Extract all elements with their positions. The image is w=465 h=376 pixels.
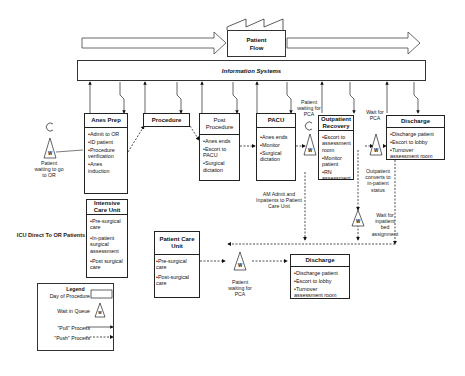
procedure-title: Procedure [144, 114, 189, 126]
list-item: Anes induction [88, 161, 125, 174]
pacu-title: PACU [257, 114, 295, 128]
patient-care-unit-title: Patient Care Unit [155, 232, 199, 255]
post-procedure-box: Post Procedure Anes ends Escort to PACU … [199, 113, 240, 181]
patient-care-unit-items: Pre-surgical care Post-surgical care [155, 255, 199, 287]
pacu-box: PACU Anes ends Monitor Surgical dictatio… [256, 113, 296, 181]
outpatient-recovery-items: Escort to assessment room Monitor patien… [319, 131, 353, 182]
patient-waiting-pca-top-label: Patient waiting for PCA [295, 99, 323, 118]
list-item: Post-surgical care [156, 274, 197, 287]
list-item: In-patient surgical assessment [90, 235, 125, 254]
legend-title: Legend [38, 286, 113, 292]
icu-box: Intensive Care Unit Pre-surgical care In… [86, 199, 128, 278]
post-procedure-items: Anes ends Escort to PACU Surgical dictat… [200, 135, 239, 173]
list-item: Discharge patient [294, 270, 347, 276]
list-item: Post surgical care [90, 258, 125, 271]
icu-direct-label: ICU Direct To OR Patients [16, 232, 86, 238]
anes-prep-box: Anes Prep Admit to OR ID patient Procedu… [84, 113, 128, 194]
patient-waiting-or-label: Patient waiting to go to OR [34, 160, 64, 179]
patient-care-unit-box: Patient Care Unit Pre-surgical care Post… [154, 231, 200, 298]
list-item: Anes ends [203, 138, 237, 144]
legend: Legend Day of Procedure Wait in Queue "P… [37, 283, 114, 351]
legend-wait-in-queue: Wait in Queue [38, 308, 90, 314]
list-item: Surgical dictation [203, 160, 237, 173]
discharge-top-title: Discharge [387, 116, 444, 128]
icu-title: Intensive Care Unit [87, 200, 127, 215]
discharge-top-box: Discharge Discharge patient Escort to lo… [386, 115, 445, 160]
flow-arrow-right [287, 32, 420, 54]
procedure-box: Procedure [143, 113, 190, 127]
wait-inpatient-bed-label: Wait for inpatient bed assignment [371, 212, 399, 237]
am-admit-label: AM Admit and Inpatients to Patient Care … [256, 191, 302, 210]
legend-day-of-procedure: Day of Procedure [38, 293, 90, 299]
outpatient-recovery-box: Outpatient Recovery Escort to assessment… [318, 115, 354, 180]
list-item: Monitor [260, 142, 293, 148]
patient-waiting-pca-bottom-label: Patient waiting for PCA [226, 279, 254, 298]
list-item: Escort to PACU [203, 146, 237, 159]
post-procedure-title: Post Procedure [200, 114, 239, 135]
icu-items: Pre-surgical care In-patient surgical as… [87, 215, 127, 271]
anes-prep-title: Anes Prep [85, 114, 127, 128]
discharge-bottom-title: Discharge [291, 255, 349, 267]
discharge-bottom-box: Discharge Discharge patient Escort to lo… [290, 254, 350, 299]
list-item: Discharge patient [390, 131, 442, 137]
patient-flow-box: Patient Flow [227, 30, 286, 57]
list-item: Pre-surgical care [90, 218, 125, 231]
list-item: Escort to lobby [294, 278, 347, 284]
legend-push-process: "Push" Process [38, 335, 90, 341]
anes-prep-items: Admit to OR ID patient Procedure verific… [85, 128, 127, 174]
list-item: Turnover assessment room [294, 286, 347, 299]
list-item: Turnover assessment room [390, 147, 442, 160]
list-item: Escort to lobby [390, 139, 442, 145]
list-item: Monitor patient [322, 155, 351, 168]
list-item: RN assessment [322, 169, 351, 182]
list-item: Surgical dictation [260, 150, 293, 163]
patient-flow-title: Patient Flow [242, 36, 272, 52]
information-systems-label: Information Systems [222, 68, 281, 74]
list-item: Pre-surgical care [156, 258, 197, 271]
list-item: Anes ends [260, 134, 293, 140]
list-item: Escort to assessment room [322, 134, 351, 153]
discharge-bottom-items: Discharge patient Escort to lobby Turnov… [291, 267, 349, 299]
wait-for-pca-label: Wait for PCA [365, 109, 385, 121]
information-systems-bar: Information Systems [77, 60, 426, 81]
list-item: ID patient [88, 139, 125, 145]
outpatient-converts-label: Outpatient converts to in-patient status [362, 168, 394, 193]
legend-pull-process: "Pull" Process [38, 325, 90, 331]
discharge-top-items: Discharge patient Escort to lobby Turnov… [387, 128, 444, 160]
list-item: Admit to OR [88, 131, 125, 137]
outpatient-recovery-title: Outpatient Recovery [319, 116, 353, 131]
pacu-items: Anes ends Monitor Surgical dictation [257, 128, 295, 163]
list-item: Procedure verification [88, 147, 125, 160]
flow-arrow-left [82, 32, 226, 54]
